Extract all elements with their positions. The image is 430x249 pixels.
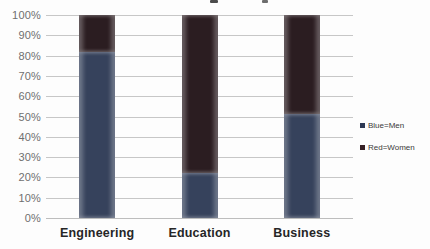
- clipped-title-descender: [210, 0, 218, 3]
- stacked-bar-chart: 100%90%80%70%60%50%40%30%20%10%0%Enginee…: [0, 0, 430, 249]
- legend-entry: Red=Women: [360, 143, 415, 152]
- legend-entry-label: Blue=Men: [368, 121, 404, 130]
- legend-entry: Blue=Men: [360, 121, 404, 130]
- legend-marker-icon: [360, 123, 365, 128]
- legend: Blue=MenRed=Women: [0, 0, 430, 249]
- legend-marker-icon: [360, 145, 365, 150]
- legend-entry-label: Red=Women: [368, 143, 415, 152]
- clipped-title-descender: [262, 0, 268, 3]
